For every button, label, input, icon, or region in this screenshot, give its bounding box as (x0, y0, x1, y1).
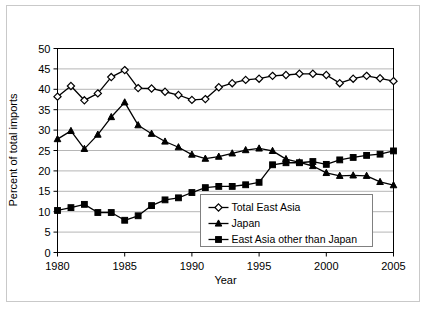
x-tick-label: 1995 (247, 260, 271, 272)
marker-open-diamond (242, 76, 249, 83)
y-tick-label: 35 (38, 104, 50, 116)
y-tick-labels-group: 05101520253035404550 (38, 43, 50, 259)
legend-item-3[interactable]: East Asia other than Japan (209, 233, 358, 245)
x-tick-label: 1980 (45, 260, 69, 272)
y-tick-label: 0 (44, 247, 50, 259)
marker-filled-triangle (121, 99, 128, 105)
marker-open-diamond (336, 80, 343, 87)
marker-filled-square (162, 197, 168, 203)
series-line (58, 70, 394, 100)
marker-open-diamond (256, 75, 263, 82)
marker-filled-square (216, 237, 222, 243)
marker-open-diamond (175, 91, 182, 98)
y-tick-label: 10 (38, 206, 50, 218)
line-chart-svg: 05101520253035404550 1980198519901995200… (0, 0, 427, 310)
marker-open-diamond (296, 70, 303, 77)
marker-open-diamond (269, 72, 276, 79)
plot-wrapper: 05101520253035404550 1980198519901995200… (0, 0, 427, 310)
marker-open-diamond (188, 96, 195, 103)
series-line (58, 102, 394, 185)
x-axis-label: Year (214, 274, 237, 286)
marker-filled-square (256, 179, 262, 185)
chart-figure: 05101520253035404550 1980198519901995200… (0, 0, 427, 310)
y-tick-label: 30 (38, 124, 50, 136)
y-tick-label: 5 (44, 226, 50, 238)
marker-filled-square (323, 161, 329, 167)
x-tick-labels-group: 198019851990199520002005 (45, 260, 405, 272)
legend-label: East Asia other than Japan (232, 233, 358, 245)
marker-filled-square (108, 210, 114, 216)
x-tick-label: 1990 (180, 260, 204, 272)
marker-filled-square (297, 160, 303, 166)
marker-filled-square (283, 160, 289, 166)
legend-label: Total East Asia (232, 201, 301, 213)
marker-filled-square (350, 155, 356, 161)
marker-open-diamond (148, 85, 155, 92)
marker-open-diamond (323, 71, 330, 78)
marker-open-diamond (229, 80, 236, 87)
x-tick-label: 2005 (381, 260, 405, 272)
marker-open-diamond (282, 71, 289, 78)
marker-filled-square (135, 213, 141, 219)
marker-filled-square (55, 208, 61, 214)
marker-filled-square (310, 159, 316, 165)
marker-open-diamond (390, 78, 397, 85)
y-tick-label: 40 (38, 83, 50, 95)
marker-filled-square (81, 201, 87, 207)
marker-filled-square (270, 162, 276, 168)
marker-filled-square (377, 151, 383, 157)
marker-filled-triangle (162, 138, 169, 144)
marker-filled-square (176, 195, 182, 201)
marker-open-diamond (350, 75, 357, 82)
y-tick-label: 50 (38, 43, 50, 55)
y-tick-label: 15 (38, 185, 50, 197)
marker-filled-square (202, 185, 208, 191)
y-axis-label: Percent of total imports (7, 93, 19, 207)
marker-filled-triangle (189, 151, 196, 157)
marker-filled-square (122, 217, 128, 223)
marker-filled-square (229, 184, 235, 190)
marker-open-diamond (376, 75, 383, 82)
marker-open-diamond (363, 72, 370, 79)
marker-filled-triangle (256, 145, 263, 151)
x-tick-label: 1985 (112, 260, 136, 272)
x-tick-label: 2000 (314, 260, 338, 272)
y-tick-label: 25 (38, 145, 50, 157)
marker-filled-triangle (148, 130, 155, 136)
marker-filled-square (337, 157, 343, 163)
y-tick-label: 45 (38, 63, 50, 75)
legend-label: Japan (232, 217, 261, 229)
marker-filled-square (189, 190, 195, 196)
marker-filled-square (243, 182, 249, 188)
marker-filled-square (149, 203, 155, 209)
marker-filled-square (68, 205, 74, 211)
marker-filled-square (364, 152, 370, 158)
marker-filled-square (216, 184, 222, 190)
chart-legend: Total East AsiaJapanEast Asia other than… (201, 195, 373, 247)
series-2 (54, 99, 397, 188)
marker-filled-square (391, 148, 397, 154)
series-1 (54, 67, 397, 104)
marker-filled-square (95, 210, 101, 216)
marker-filled-triangle (54, 135, 61, 141)
y-tick-label: 20 (38, 165, 50, 177)
marker-open-diamond (309, 70, 316, 77)
